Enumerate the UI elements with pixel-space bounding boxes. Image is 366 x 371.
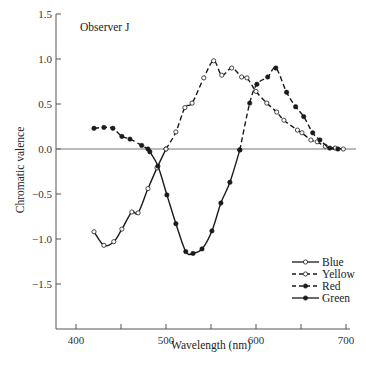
data-point [230,66,234,70]
data-point [165,193,169,197]
data-point [212,59,216,63]
series-yellow [164,59,346,151]
data-point [183,106,187,110]
plot-area [92,59,346,256]
data-point [156,164,160,168]
data-point [190,101,194,105]
data-point [336,147,340,151]
data-point [148,150,152,154]
data-point [266,75,270,79]
data-point [282,118,286,122]
data-point [240,75,244,79]
data-point [219,201,223,205]
axes: 1.51.00.50.0−0.5−1.0−1.5400500600700 [32,8,355,346]
data-point [284,90,288,94]
data-point [245,76,249,80]
x-axis-title: Wavelength (nm) [171,339,251,352]
data-point [120,134,124,138]
data-point [202,76,206,80]
data-point [92,230,96,234]
legend-line-dashed-filled-icon [292,284,319,288]
y-tick-label: −0.5 [32,188,52,200]
data-point [174,130,178,134]
y-tick-label: −1.5 [32,278,52,290]
data-point [111,126,115,130]
data-point [174,222,178,226]
observer-annotation: Observer J [80,21,130,33]
data-point [309,138,313,142]
data-point [140,143,144,147]
data-point [274,66,278,70]
y-axis-title: Chromatic valence [14,127,26,214]
data-point [220,73,224,77]
data-point [130,210,134,214]
y-tick-label: 1.5 [38,8,52,20]
y-tick-label: −1.0 [32,233,52,245]
data-point [200,247,204,251]
data-point [120,227,124,231]
legend-item-red: Red [292,280,341,292]
legend-item-yellow: Yellow [292,268,355,280]
series-red [92,66,340,152]
chromatic-valence-chart: 1.51.00.50.0−0.5−1.0−1.5400500600700 Obs… [0,0,366,371]
data-point [102,125,106,129]
y-tick-label: 1.0 [38,53,52,65]
y-tick-label: 0.0 [38,143,52,155]
legend-item-blue: Blue [292,256,344,268]
data-point [184,249,188,253]
y-tick-label: 0.5 [38,98,52,110]
data-point [295,128,299,132]
data-point [228,180,232,184]
legend-item-green: Green [292,292,350,304]
legend-line-dashed-open-icon [292,272,319,276]
data-point [164,147,168,151]
legend: Blue Yellow Red Green [292,256,355,304]
data-point [328,146,332,150]
legend-line-solid-open-icon [292,260,319,264]
legend-label: Green [322,292,350,304]
data-point [136,211,140,215]
data-point [210,229,214,233]
legend-label: Blue [322,256,344,268]
data-point [255,82,259,86]
data-point [238,148,242,152]
data-point [112,240,116,244]
data-point [318,138,322,142]
data-point [341,147,345,151]
data-point [191,251,195,255]
data-point [302,114,306,118]
legend-line-solid-filled-icon [292,296,319,300]
data-point [300,131,304,135]
legend-label: Yellow [322,268,355,280]
data-point [275,110,279,114]
data-point [248,101,252,105]
data-point [128,137,132,141]
data-point [92,126,96,130]
legend-label: Red [322,280,341,292]
x-tick-label: 700 [338,334,355,346]
data-point [311,131,315,135]
data-point [102,243,106,247]
data-point [254,89,258,93]
data-point [265,101,269,105]
x-tick-label: 400 [68,334,85,346]
data-point [146,187,150,191]
series-green [148,148,242,256]
data-point [293,105,297,109]
